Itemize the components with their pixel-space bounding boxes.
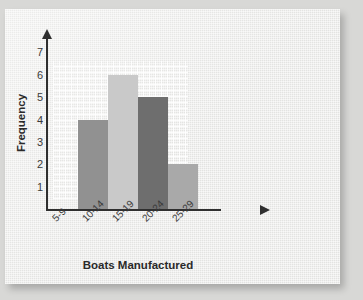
y-tick-label: 6	[29, 69, 43, 81]
histogram-chart: 7654321 5-910-1415-1920-2425-29 Boats Ma…	[5, 9, 340, 284]
bar	[78, 120, 108, 209]
bar-series	[48, 39, 223, 209]
y-axis-arrow-icon	[42, 29, 52, 39]
chart-card: 7654321 5-910-1415-1920-2425-29 Boats Ma…	[5, 9, 340, 284]
bar	[138, 97, 168, 209]
y-tick-label: 2	[29, 158, 43, 170]
screenshot-root: 7654321 5-910-1415-1920-2425-29 Boats Ma…	[0, 0, 363, 300]
x-tick-labels: 5-910-1415-1920-2425-29	[48, 212, 238, 258]
y-axis-title: Frequency	[15, 83, 27, 163]
y-tick-labels: 7654321	[27, 9, 43, 284]
y-tick-label: 1	[29, 181, 43, 193]
y-tick-label: 7	[29, 46, 43, 58]
y-tick-label: 3	[29, 136, 43, 148]
x-axis-line	[46, 209, 221, 211]
x-axis-arrow-icon	[260, 205, 270, 215]
y-tick-label: 5	[29, 91, 43, 103]
x-axis-title: Boats Manufactured	[48, 259, 228, 271]
y-tick-label: 4	[29, 114, 43, 126]
bar	[108, 75, 138, 209]
